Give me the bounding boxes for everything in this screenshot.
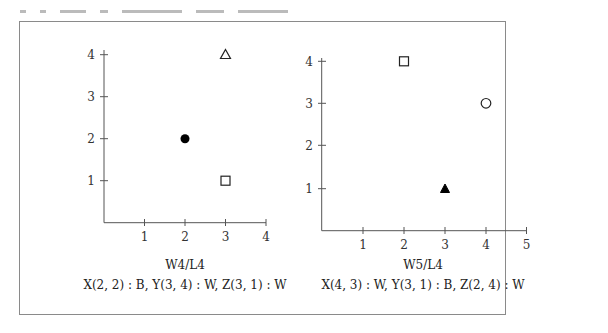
right-x-tick-3: 3 [441, 238, 449, 252]
left-x-tick-2: 2 [181, 230, 189, 244]
right-x-tick-1: 1 [359, 238, 367, 252]
left-x-tick-1: 1 [141, 230, 149, 244]
right-y-tick-4: 4 [305, 55, 313, 69]
left-chart-description: X(2, 2) : B, Y(3, 4) : W, Z(3, 1) : W [83, 278, 286, 292]
right-points [400, 57, 491, 193]
right-y-tick-2: 2 [305, 139, 313, 153]
left-y-tick-4: 4 [87, 48, 95, 62]
point-z-white-square-icon [221, 176, 230, 185]
left-y-tick-2: 2 [87, 132, 95, 146]
left-x-tick-3: 3 [222, 230, 230, 244]
left-x-tick-4: 4 [262, 230, 270, 244]
right-chart [318, 58, 527, 234]
point-z-white-square-icon [400, 57, 409, 66]
right-x-tick-2: 2 [400, 238, 408, 252]
right-y-tick-3: 3 [305, 97, 313, 111]
right-x-tick-5: 5 [523, 238, 531, 252]
right-y-tick-1: 1 [305, 182, 313, 196]
right-tick-labels: 1 2 3 4 5 1 2 3 4 [305, 55, 530, 252]
point-x-black-circle-icon [181, 134, 190, 143]
right-chart-title: W5/L4 [403, 258, 443, 272]
left-chart-title: W4/L4 [165, 258, 205, 272]
right-chart-description: X(4, 3) : W, Y(3, 1) : B, Z(2, 4) : W [321, 278, 524, 292]
point-x-white-circle-icon [481, 99, 491, 109]
right-x-tick-4: 4 [482, 238, 490, 252]
left-y-tick-3: 3 [87, 90, 95, 104]
left-y-tick-1: 1 [87, 174, 95, 188]
left-points [181, 50, 231, 186]
point-y-black-triangle-icon [441, 184, 450, 193]
point-y-white-triangle-icon [221, 50, 231, 59]
left-tick-labels: 1 2 3 4 1 2 3 4 [87, 48, 270, 244]
